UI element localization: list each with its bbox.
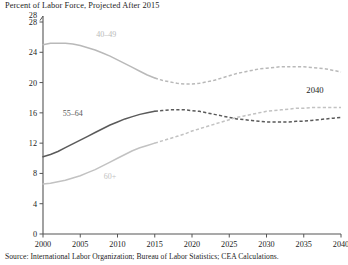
y-tick-label-4: 4	[33, 200, 37, 209]
y-tick-label-24: 24	[29, 48, 37, 57]
series-line-solid-55-64	[43, 111, 155, 156]
series-line-projected-55-64	[155, 110, 341, 122]
series-line-projected-40-49	[155, 67, 341, 84]
x-tick-label-2025: 2025	[221, 240, 237, 249]
x-tick-label-2010: 2010	[109, 240, 125, 249]
series-label-55-64: 55–64	[63, 109, 83, 118]
x-tick-label-2005: 2005	[72, 240, 88, 249]
chart-source-note: Source: International Labor Organization…	[5, 252, 279, 261]
labor-force-chart: Percent of Labor Force, Projected After …	[0, 0, 348, 265]
y-axis-max-label: 28	[29, 11, 37, 20]
x-tick-label-2035: 2035	[296, 240, 312, 249]
y-tick-label-0: 0	[33, 230, 37, 239]
y-tick-label-12: 12	[29, 139, 37, 148]
series-label-60+: 60+	[104, 172, 117, 181]
year-2040-annotation: 2040	[306, 85, 323, 95]
series-label-40-49: 40–49	[96, 30, 116, 39]
series-line-solid-40-49	[43, 43, 155, 78]
chart-plot-area: 0481216202428282000200520102015202020252…	[0, 0, 348, 265]
x-tick-label-2020: 2020	[184, 240, 200, 249]
series-line-projected-60+	[155, 108, 341, 144]
y-tick-label-16: 16	[29, 109, 37, 118]
y-tick-label-8: 8	[33, 169, 37, 178]
x-tick-label-2015: 2015	[147, 240, 163, 249]
series-line-solid-60+	[43, 143, 155, 184]
y-tick-label-20: 20	[29, 79, 37, 88]
x-tick-label-2030: 2030	[258, 240, 274, 249]
x-tick-label-2000: 2000	[35, 240, 51, 249]
x-tick-label-2040: 2040	[333, 240, 348, 249]
